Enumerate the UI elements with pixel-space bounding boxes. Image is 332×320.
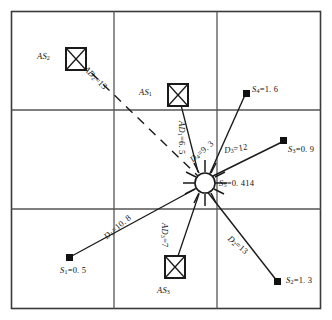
distance-label-ad3: AD3=7 bbox=[160, 223, 169, 247]
distance-label-ad1: AD1=6. 5 bbox=[177, 121, 186, 154]
anchor-station-as3[interactable] bbox=[165, 256, 185, 278]
sensor-marker-s4[interactable] bbox=[243, 90, 250, 97]
sensor-label-s1-value: =0. 5 bbox=[68, 265, 87, 275]
anchor-label-as2: AS2 bbox=[37, 52, 50, 61]
anchor-label-as3: AS3 bbox=[157, 286, 170, 295]
distance-label-ad1-value: =6. 5 bbox=[177, 136, 187, 155]
diagram-svg bbox=[0, 0, 332, 320]
sensor-marker-s2[interactable] bbox=[274, 278, 281, 285]
sensor-label-s3: S3=0. 9 bbox=[288, 145, 314, 154]
anchor-label-as2-sub: 2 bbox=[47, 55, 50, 61]
sensor-marker-s3[interactable] bbox=[280, 137, 287, 144]
sun-circle bbox=[195, 173, 215, 193]
sensor-label-s4: S4=1. 6 bbox=[252, 85, 278, 94]
distance-label-ad3-value: =7 bbox=[160, 238, 170, 247]
anchor-station-as1[interactable] bbox=[168, 84, 188, 106]
distance-label-d3-value: =12 bbox=[233, 141, 248, 153]
anchor-station-as2[interactable] bbox=[66, 48, 86, 70]
anchor-label-as1-sub: 1 bbox=[149, 91, 152, 97]
anchor-label-as1-symbol: AS bbox=[139, 87, 149, 97]
diagram-canvas: AS2 AS1 AS3 S4=1. 6 S3=0. 9 S2=1. 3 S1=0… bbox=[0, 0, 332, 320]
sensor-label-s2-value: =1. 3 bbox=[294, 275, 313, 285]
anchor-label-as1: AS1 bbox=[139, 88, 152, 97]
distance-label-ad1-symbol: AD bbox=[177, 121, 187, 133]
sensor-label-s4-value: =1. 6 bbox=[260, 84, 279, 94]
anchor-label-as3-symbol: AS bbox=[157, 285, 167, 295]
sensor-label-s2: S2=1. 3 bbox=[286, 276, 312, 285]
sensor-label-s1: S1=0. 5 bbox=[60, 266, 86, 275]
center-node-label: S5=0. 414 bbox=[219, 179, 254, 188]
distance-label-ad3-symbol: AD bbox=[160, 223, 170, 235]
anchor-label-as3-sub: 3 bbox=[167, 289, 170, 295]
anchor-label-as2-symbol: AS bbox=[37, 51, 47, 61]
sensor-marker-s1[interactable] bbox=[66, 254, 73, 261]
center-node-value: =0. 414 bbox=[227, 178, 254, 188]
sensor-label-s3-value: =0. 9 bbox=[296, 144, 315, 154]
